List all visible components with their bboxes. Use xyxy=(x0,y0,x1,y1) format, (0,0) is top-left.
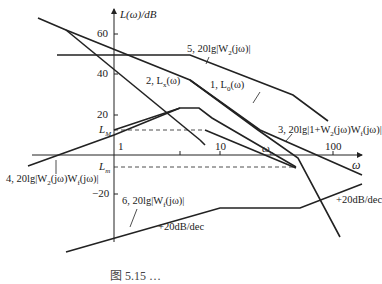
y-tick-40: 40 xyxy=(97,68,108,79)
x-tick-100: 100 xyxy=(325,141,342,152)
y-tick-minus20: −20 xyxy=(92,188,109,199)
curve-3-label: 3, 20lg|1+W2(jω)Wf(jω)| xyxy=(278,125,382,138)
y-tick-60: 60 xyxy=(97,28,108,39)
lm-upper-label: LM xyxy=(99,124,111,138)
curve-2-label: 2, Lx(ω) xyxy=(146,76,180,89)
y-axis-label: L(ω)/dB xyxy=(120,9,157,20)
curve-4-label: 4, 20lg|W2(jω)Wf(jω)| xyxy=(6,174,99,187)
slope-annotation-right: +20dB/dec xyxy=(336,195,382,206)
figure-caption: 图 5.15 … xyxy=(110,266,161,284)
curve-1-label: 1, L0(ω) xyxy=(210,80,244,93)
omega-c-label: ωc xyxy=(262,143,273,157)
x-axis-label: ω xyxy=(352,159,360,171)
x-tick-1: 1 xyxy=(118,141,124,152)
curve-6-label: 6, 20lg|Wf(jω)| xyxy=(122,196,184,209)
x-tick-10: 10 xyxy=(215,141,226,152)
curve-5-label: 5, 20lg|W2(jω)| xyxy=(187,44,251,57)
lm-lower-label: Lm xyxy=(99,161,110,175)
y-tick-20: 20 xyxy=(97,109,108,120)
slope-annotation-bottom: +20dB/dec xyxy=(158,222,204,233)
